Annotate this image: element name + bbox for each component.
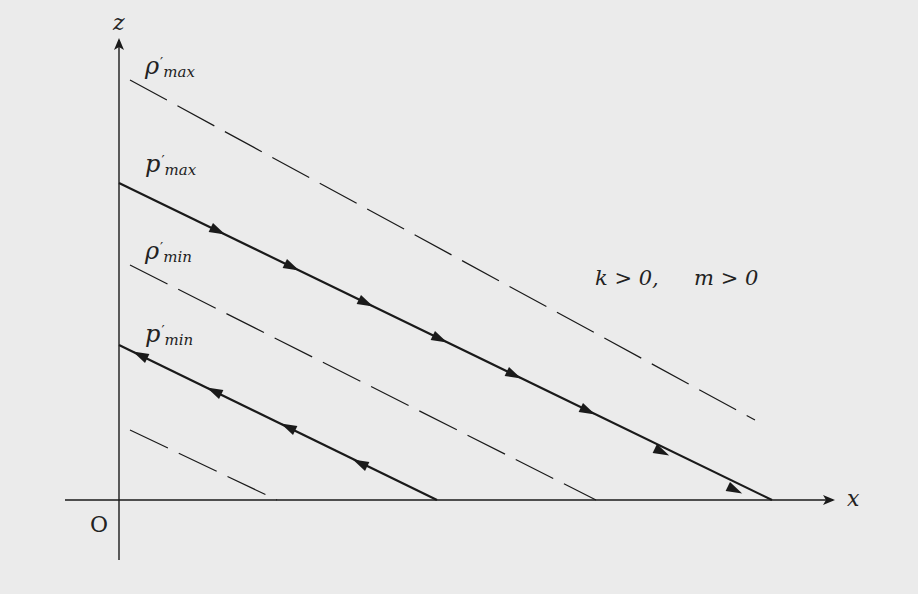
rho-max-line bbox=[130, 80, 755, 420]
x-axis-label: x bbox=[847, 486, 859, 511]
diagram-svg bbox=[0, 0, 918, 594]
p-max-arrow-icons bbox=[209, 223, 745, 498]
z-axis-label: z bbox=[113, 10, 125, 35]
diagram-canvas: z x O ρ′max p′max ρ′min p′min k > 0, m >… bbox=[0, 0, 918, 594]
p-max-label: p′max bbox=[145, 150, 196, 178]
rho-min-symbol: ρ bbox=[145, 237, 159, 265]
condition-k: k > 0, bbox=[595, 266, 659, 290]
p-max-subscript: max bbox=[165, 161, 197, 179]
rho-max-subscript: max bbox=[163, 63, 195, 81]
p-min-label: p′min bbox=[145, 320, 193, 348]
p-min-line bbox=[119, 345, 437, 500]
rho-max-symbol: ρ bbox=[145, 52, 159, 80]
origin-label: O bbox=[90, 512, 108, 537]
rho-max-label: ρ′max bbox=[145, 52, 195, 80]
lower-dashed-line bbox=[130, 430, 277, 500]
rho-min-label: ρ′min bbox=[145, 237, 192, 265]
condition-m: m > 0 bbox=[694, 266, 758, 290]
p-min-symbol: p bbox=[145, 320, 160, 348]
p-max-symbol: p bbox=[145, 150, 160, 178]
p-min-subscript: min bbox=[165, 331, 194, 349]
rho-min-subscript: min bbox=[163, 248, 192, 266]
condition-label: k > 0, m > 0 bbox=[595, 266, 758, 290]
